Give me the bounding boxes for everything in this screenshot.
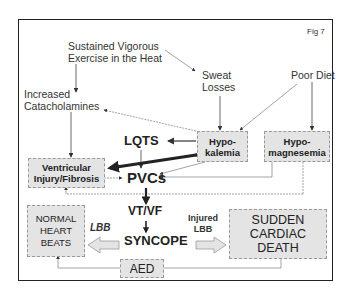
hypokalemia-line-1: Hypo-: [205, 136, 240, 147]
scd-line-3: DEATH: [250, 241, 306, 255]
catecholamines-line-2: Catacholamines: [24, 100, 99, 112]
scd-line-1: SUDDEN: [250, 213, 306, 227]
node-sudden-cardiac-death: SUDDENCARDIACDEATH: [229, 209, 327, 259]
node-lqts: LQTS: [124, 134, 159, 148]
catecholamines-line-1: Increased: [24, 88, 99, 100]
exercise-line-1: Sustained Vigorous: [68, 40, 162, 52]
ventricular-line-1: Ventricular: [34, 162, 99, 173]
normal-line-3: BEATS: [36, 237, 77, 249]
node-syncope: SYNCOPE: [124, 234, 188, 248]
scd-line-2: CARDIAC: [250, 227, 306, 241]
injured-lbb-line-2: LBB: [188, 224, 218, 235]
exercise-line-2: Exercise in the Heat: [68, 52, 162, 64]
node-hypokalemia: Hypo-kalemia: [197, 131, 248, 162]
node-aed: AED: [120, 259, 164, 278]
node-vtvf: VT/VF: [128, 205, 162, 218]
label-injured-lbb: Injured LBB: [188, 213, 218, 235]
ventricular-line-2: Injury/Fibrosis: [34, 173, 99, 184]
hypomagnesemia-line-1: Hypo-: [268, 136, 326, 147]
injured-lbb-line-1: Injured: [188, 213, 218, 224]
node-hypomagnesemia: Hypo-magnesemia: [264, 131, 330, 162]
node-ventricular-injury: VentricularInjury/Fibrosis: [28, 158, 105, 188]
node-catecholamines: Increased Catacholamines: [24, 88, 99, 112]
normal-line-1: NORMAL: [36, 213, 77, 225]
node-sweat: Sweat Losses: [202, 69, 235, 93]
sweat-line-2: Losses: [202, 81, 235, 93]
hypomagnesemia-line-2: magnesemia: [268, 147, 326, 158]
node-diet: Poor Diet: [291, 69, 335, 81]
node-pvcs: PVCs: [127, 170, 166, 186]
figure-label: Fig 7: [307, 26, 325, 38]
normal-line-2: HEART: [36, 225, 77, 237]
node-exercise: Sustained Vigorous Exercise in the Heat: [68, 40, 162, 64]
sweat-line-1: Sweat: [202, 69, 235, 81]
node-normal-heart-beats: NORMALHEARTBEATS: [27, 205, 85, 257]
hypokalemia-line-2: kalemia: [205, 147, 240, 158]
label-lbb: LBB: [90, 222, 111, 234]
